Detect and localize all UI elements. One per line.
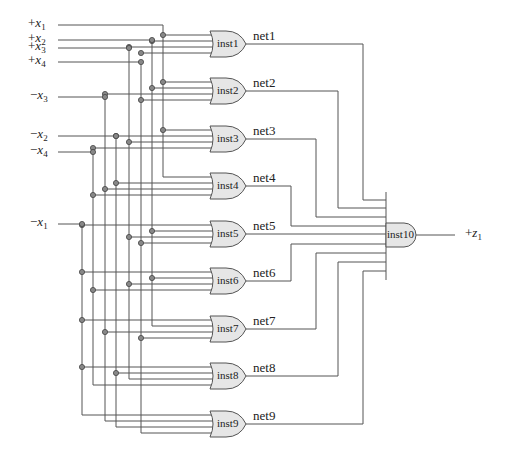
net-label-net6: net6 (253, 266, 275, 279)
junction-dot (160, 79, 165, 84)
junction-dot (126, 281, 131, 286)
net-label-net7: net7 (253, 314, 275, 327)
junction-dot (90, 287, 95, 292)
junction-dot (138, 240, 143, 245)
input-label-px4: +x4 (28, 53, 46, 69)
junction-dot (126, 45, 131, 50)
gate-label-inst9: inst9 (217, 418, 238, 429)
junction-dot (160, 127, 165, 132)
junction-dot (90, 192, 95, 197)
junction-dot (102, 186, 107, 191)
junction-dot (113, 133, 118, 138)
input-label-nx1: −x1 (30, 215, 48, 231)
net-label-net9: net9 (253, 409, 275, 422)
junction-dot (126, 139, 131, 144)
junction-dot (79, 317, 84, 322)
gate-label-inst8: inst8 (217, 370, 238, 381)
junction-dot (126, 234, 131, 239)
junction-dot (90, 149, 95, 154)
junction-dot (79, 221, 84, 226)
net-label-net4: net4 (253, 171, 275, 184)
junction-dot (160, 32, 165, 37)
junction-dot (79, 269, 84, 274)
junction-dot (149, 228, 154, 233)
net-label-net5: net5 (253, 219, 275, 232)
gate-label-inst10: inst10 (387, 229, 414, 240)
junction-dot (149, 85, 154, 90)
junction-dot (149, 37, 154, 42)
gate-label-inst3: inst3 (217, 133, 238, 144)
junction-dot (79, 364, 84, 369)
junction-dot (102, 329, 107, 334)
net-label-net1: net1 (253, 29, 275, 42)
gate-label-inst4: inst4 (217, 180, 238, 191)
junction-dot (102, 94, 107, 99)
net-label-net8: net8 (253, 361, 275, 374)
junction-dot (138, 97, 143, 102)
gate-label-inst1: inst1 (217, 38, 238, 49)
input-label-nx2: −x2 (30, 127, 48, 143)
net-label-net3: net3 (253, 124, 275, 137)
junction-dot (138, 335, 143, 340)
junction-dot (138, 59, 143, 64)
junction-dot (149, 275, 154, 280)
input-label-nx3: −x3 (30, 88, 48, 104)
junction-dot (113, 370, 118, 375)
junction-dot (138, 50, 143, 55)
junction-dot (113, 180, 118, 185)
gate-label-inst5: inst5 (217, 228, 238, 239)
net-label-net2: net2 (253, 76, 275, 89)
output-label-z1: +z1 (465, 226, 482, 242)
input-label-nx4: −x4 (30, 143, 48, 159)
gate-label-inst2: inst2 (217, 85, 238, 96)
gate-label-inst7: inst7 (217, 323, 238, 334)
gate-label-inst6: inst6 (217, 275, 238, 286)
